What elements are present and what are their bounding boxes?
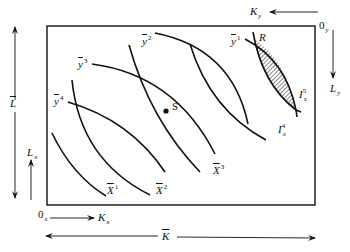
label-capital-x: Kx [98,212,109,223]
label-origin-x: 0x [38,209,48,220]
label-isoquant-y1: y1 [231,36,240,47]
label-labor-y: Ly [330,83,340,94]
isoquant-x1 [52,133,106,196]
tangency-point-s [163,108,168,113]
label-total-capital: K [162,231,169,242]
box-frame [47,26,315,205]
isoquant-y4 [68,102,165,172]
label-isoquant-y4: y4 [54,96,63,107]
label-isoquant-x5: Ix5 [299,89,306,100]
total-capital-arrow [46,236,315,238]
label-total-labor: L [10,98,16,109]
label-point-s: S [172,101,178,112]
label-isoquant-y3: y3 [78,59,87,70]
label-isoquant-x3: X3 [213,165,224,176]
isoquant-x3 [129,45,200,172]
label-isoquant-x2: X2 [156,185,167,196]
label-isoquant-y2: y2 [142,36,151,47]
label-isoquant-x4: Ix4 [278,124,285,135]
edgeworth-box-diagram [0,0,350,252]
isoquant-x4 [190,44,266,140]
label-capital-y: Ky [250,6,261,17]
label-region-r: R [259,32,266,43]
label-isoquant-x1: X1 [107,185,118,196]
label-origin-y: 0y [319,20,329,31]
label-labor-x: Lx [27,147,37,158]
